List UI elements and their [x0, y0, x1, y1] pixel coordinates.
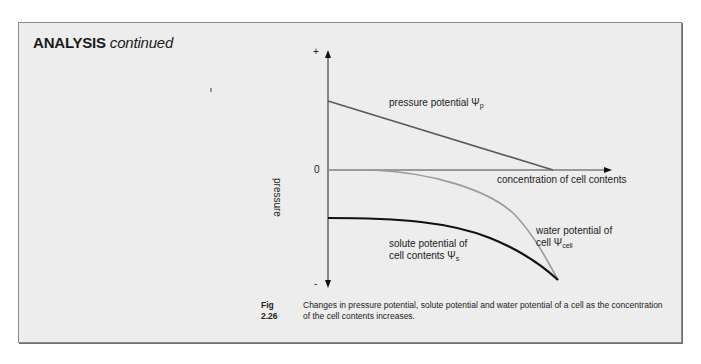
- y-tick-zero: 0: [314, 164, 320, 176]
- pressure-potential-label: pressure potential Ψp: [389, 97, 484, 112]
- solute-potential-label: solute potential of cell contents Ψs: [389, 238, 467, 265]
- x-axis-label: concentration of cell contents: [497, 174, 627, 186]
- water-potential-label: water potential of cell Ψcell: [536, 225, 612, 252]
- y-tick-minus: -: [314, 278, 317, 290]
- y-axis-label: pressure: [272, 178, 283, 217]
- figure-number: Fig 2.26: [261, 300, 278, 322]
- y-tick-plus: +: [313, 46, 319, 58]
- caption-text: Changes in pressure potential, solute po…: [303, 300, 663, 322]
